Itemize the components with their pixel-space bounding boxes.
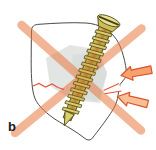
figure-label: b xyxy=(8,119,16,135)
figure-panel: b xyxy=(0,0,156,150)
medical-illustration xyxy=(0,0,156,150)
